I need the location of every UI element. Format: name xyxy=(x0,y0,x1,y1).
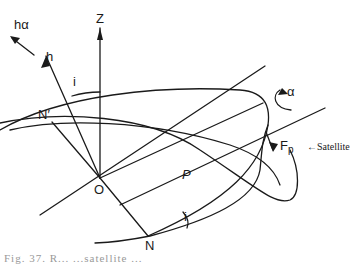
p-line xyxy=(120,108,325,205)
orbit-lower xyxy=(95,125,268,243)
z-arrowhead xyxy=(97,28,103,40)
label-alpha: α xyxy=(287,85,295,98)
equator-curve xyxy=(10,123,280,185)
label-o: O xyxy=(94,183,104,196)
i-arc-top xyxy=(72,92,100,96)
label-h-alpha: hα xyxy=(14,18,29,31)
label-z: Z xyxy=(96,12,104,25)
label-n-prime: N′ xyxy=(38,108,50,121)
label-p: P xyxy=(182,168,191,181)
label-i-bottom: i xyxy=(184,210,187,223)
o-n-line xyxy=(100,178,148,236)
figure-caption: Fig. 37. R... ...satellite ... xyxy=(4,252,142,264)
label-fp: Fp xyxy=(280,139,294,155)
label-h: h xyxy=(46,50,53,63)
label-i-top: i xyxy=(73,75,76,88)
n-prime-line xyxy=(52,122,100,178)
label-n: N xyxy=(145,239,154,252)
label-satellite: ←Satellite xyxy=(307,142,350,152)
fp-arrowhead xyxy=(269,142,278,152)
reference-orbit xyxy=(0,116,298,200)
